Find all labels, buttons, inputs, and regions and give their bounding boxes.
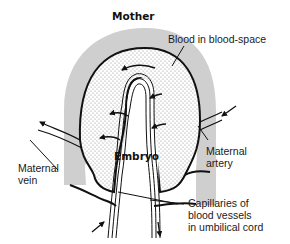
placenta-diagram: Mother Blood in blood-space Embryo Mater… xyxy=(0,0,290,244)
label-capillaries-3: in umbilical cord xyxy=(188,221,263,233)
label-capillaries-2: blood vessels xyxy=(188,209,252,221)
label-embryo: Embryo xyxy=(114,150,159,162)
label-maternal-vein-2: vein xyxy=(18,174,37,186)
umbilical-inflow-arrow xyxy=(92,222,104,232)
label-capillaries-1: Capillaries of xyxy=(188,197,249,209)
label-blood-space: Blood in blood-space xyxy=(168,33,266,45)
artery-inflow-arrow xyxy=(222,106,236,116)
label-maternal-artery-2: artery xyxy=(206,157,234,169)
label-mother: Mother xyxy=(112,10,155,22)
label-maternal-vein-1: Maternal xyxy=(18,162,59,174)
label-maternal-artery-1: Maternal xyxy=(206,145,247,157)
